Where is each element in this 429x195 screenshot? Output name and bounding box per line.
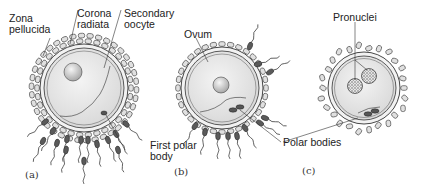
label-polar-bodies: Polar bodies bbox=[283, 137, 341, 148]
label-pronuclei: Pronuclei bbox=[333, 12, 377, 23]
panel-b-ovum bbox=[176, 42, 269, 135]
panel-c-zygote bbox=[318, 41, 409, 135]
label-corona-radiata-line2: radiata bbox=[77, 19, 109, 30]
label-secondary-oocyte-line2: oocyte bbox=[124, 19, 155, 30]
panel-label-a: (a) bbox=[25, 169, 39, 180]
label-first-polar-body-line2: body bbox=[150, 151, 173, 162]
panel-label-b: (b) bbox=[174, 166, 188, 177]
panel-label-c: (c) bbox=[302, 165, 315, 176]
fertilization-diagram bbox=[0, 0, 429, 195]
label-ovum: Ovum bbox=[184, 29, 212, 40]
label-zona-pellucida-line2: pellucida bbox=[9, 24, 50, 35]
